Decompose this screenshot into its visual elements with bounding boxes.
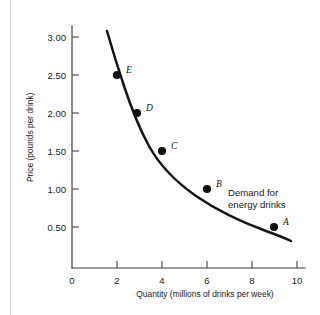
y-tick-label-3.00: 3.00	[48, 32, 67, 43]
x-tick-label-0: 0	[69, 275, 74, 286]
data-point-label-D: D	[145, 103, 153, 113]
demand-curve-label-line1: Demand for	[228, 187, 279, 198]
x-axis-tick-labels: 0 2 4 6 8 10	[69, 275, 302, 286]
data-point-label-B: B	[216, 179, 222, 189]
x-axis-ticks	[117, 261, 297, 268]
x-axis-title: Quantity (millions of drinks per week)	[136, 289, 274, 299]
data-point-label-A: A	[282, 217, 289, 227]
y-axis-ticks	[72, 37, 79, 227]
data-point-D	[133, 109, 141, 117]
y-axis-tick-labels: 3.00 2.50 2.00 1.50 1.00 0.50	[48, 32, 67, 233]
data-point-B	[203, 185, 211, 193]
y-tick-label-2.00: 2.00	[48, 108, 67, 119]
data-point-label-E: E	[125, 65, 132, 75]
y-tick-label-1.00: 1.00	[48, 184, 67, 195]
y-tick-label-0.50: 0.50	[48, 222, 67, 233]
y-tick-label-1.50: 1.50	[48, 146, 67, 157]
demand-curve-figure: 3.00 2.50 2.00 1.50 1.00 0.50 Price (pou…	[0, 0, 320, 315]
demand-curve-annotation: Demand for energy drinks	[228, 187, 286, 210]
x-tick-label-6: 6	[204, 275, 209, 286]
data-point-C	[158, 147, 166, 155]
data-point-A	[270, 223, 278, 231]
x-tick-label-8: 8	[249, 275, 254, 286]
data-point-E	[113, 71, 121, 79]
x-tick-label-4: 4	[159, 275, 164, 286]
x-tick-label-10: 10	[292, 275, 303, 286]
data-point-label-C: C	[171, 141, 178, 151]
y-tick-label-2.50: 2.50	[48, 70, 67, 81]
y-axis-title: Price (pounds per drink)	[25, 92, 35, 182]
x-tick-label-2: 2	[114, 275, 119, 286]
demand-curve-label-line2: energy drinks	[228, 199, 286, 210]
